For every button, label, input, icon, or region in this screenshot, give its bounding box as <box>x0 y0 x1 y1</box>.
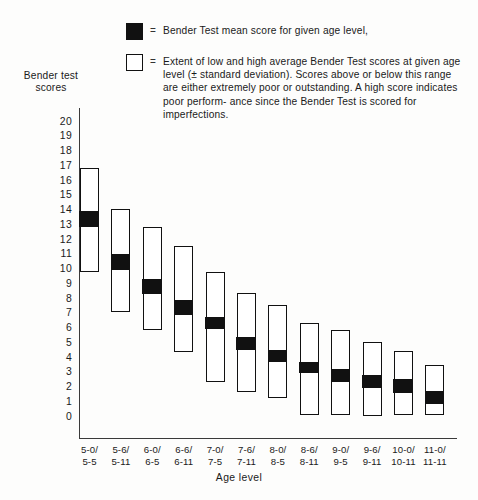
mean-score-band <box>79 211 98 227</box>
score-range-bar <box>300 323 319 416</box>
y-tick-label: 5 <box>38 336 72 347</box>
mean-score-band <box>331 369 350 382</box>
y-axis-line <box>79 108 80 439</box>
x-axis-title: Age level <box>0 472 478 483</box>
y-tick-label: 0 <box>38 410 72 421</box>
mean-score-band <box>236 337 255 350</box>
y-tick-label: 2 <box>38 381 72 392</box>
y-axis-tick-labels: 20191817161514131211109876543210 <box>38 0 72 500</box>
y-tick-label: 12 <box>38 233 72 244</box>
score-range-bar <box>394 351 413 416</box>
mean-score-band <box>205 317 224 329</box>
y-tick-label: 1 <box>38 395 72 406</box>
score-range-bar <box>206 272 225 381</box>
y-tick-label: 7 <box>38 307 72 318</box>
mean-score-band <box>268 350 287 362</box>
y-tick-label: 20 <box>38 115 72 126</box>
mean-score-band <box>425 391 444 404</box>
y-tick-label: 6 <box>38 322 72 333</box>
y-tick-label: 14 <box>38 204 72 215</box>
score-range-bar <box>174 246 193 352</box>
y-tick-label: 8 <box>38 292 72 303</box>
plot-area: 20191817161514131211109876543210 5-0/5-5… <box>0 0 478 500</box>
y-tick-label: 17 <box>38 159 72 170</box>
mean-score-band <box>393 379 412 392</box>
x-tick-label-line-2: 11-11 <box>414 456 456 468</box>
y-tick-label: 11 <box>38 248 72 259</box>
y-tick-label: 3 <box>38 366 72 377</box>
y-tick-label: 16 <box>38 174 72 185</box>
y-tick-label: 13 <box>38 218 72 229</box>
mean-score-band <box>362 375 381 388</box>
y-tick-label: 10 <box>38 263 72 274</box>
mean-score-band <box>142 279 161 294</box>
score-range-bar <box>143 227 162 330</box>
mean-score-band <box>174 300 193 315</box>
y-tick-label: 15 <box>38 189 72 200</box>
score-range-bar <box>237 293 256 392</box>
x-tick-label-line-1: 11-0/ <box>414 444 456 456</box>
mean-score-band <box>111 254 130 270</box>
x-tick-label: 11-0/11-11 <box>414 444 456 467</box>
y-tick-label: 4 <box>38 351 72 362</box>
x-axis-line <box>79 438 457 439</box>
x-axis-tick-labels: 5-0/5-55-6/5-116-0/6-56-6/6-117-0/7-57-6… <box>0 444 478 472</box>
score-range-bar <box>80 168 99 273</box>
y-tick-label: 18 <box>38 145 72 156</box>
score-range-bar <box>363 342 382 416</box>
bender-test-chart-figure: = Bender Test mean score for given age l… <box>0 0 478 500</box>
mean-score-band <box>299 362 318 374</box>
score-range-bar <box>425 365 444 415</box>
score-range-bar <box>331 330 350 416</box>
score-range-bar <box>268 305 287 398</box>
y-tick-label: 9 <box>38 277 72 288</box>
y-tick-label: 19 <box>38 130 72 141</box>
score-range-bar <box>111 209 130 312</box>
